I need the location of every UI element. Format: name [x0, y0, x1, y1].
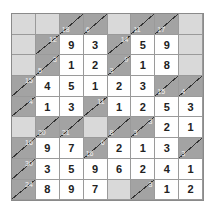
- value-cell[interactable]: 3: [131, 76, 155, 97]
- value-cell[interactable]: 1: [131, 55, 155, 76]
- down-clue: 16: [86, 150, 94, 157]
- across-clue: 15: [25, 77, 33, 84]
- value-cell[interactable]: 3: [179, 97, 203, 118]
- down-clue: 4: [181, 88, 185, 95]
- down-clue: 20: [38, 129, 46, 136]
- value-cell[interactable]: 1: [84, 76, 108, 97]
- across-clue: 16: [25, 139, 33, 146]
- value-cell[interactable]: 9: [60, 35, 84, 56]
- value-cell[interactable]: 5: [131, 35, 155, 56]
- down-clue: 6: [86, 26, 90, 33]
- value-cell[interactable]: 1: [131, 138, 155, 159]
- down-clue: 11: [133, 26, 140, 33]
- down-clue: 21: [62, 129, 70, 136]
- clue-cell: 8: [108, 117, 132, 138]
- clue-cell: 35: [36, 55, 60, 76]
- value-cell[interactable]: 9: [155, 35, 179, 56]
- value-cell[interactable]: 7: [60, 138, 84, 159]
- down-clue: 3: [133, 129, 137, 136]
- across-clue: 12: [49, 36, 57, 43]
- blank-cell: [108, 180, 132, 201]
- blank-cell: [179, 55, 203, 76]
- value-cell[interactable]: 1: [60, 55, 84, 76]
- value-cell[interactable]: 7: [84, 180, 108, 201]
- value-cell[interactable]: 4: [155, 159, 179, 180]
- down-clue: 3: [110, 67, 114, 74]
- blank-cell: [12, 35, 36, 56]
- value-cell[interactable]: 2: [131, 159, 155, 180]
- blank-cell: [179, 35, 203, 56]
- clue-cell: 16: [12, 138, 36, 159]
- value-cell[interactable]: 2: [108, 76, 132, 97]
- clue-cell: 4: [179, 76, 203, 97]
- clue-cell: 20: [36, 117, 60, 138]
- clue-cell: 14: [108, 35, 132, 56]
- clue-cell: 11: [84, 97, 108, 118]
- clue-cell: 15: [12, 76, 36, 97]
- across-clue: 3: [53, 56, 57, 63]
- blank-cell: [12, 117, 36, 138]
- down-clue: 17: [157, 26, 165, 33]
- value-cell[interactable]: 3: [36, 159, 60, 180]
- clue-cell: 616: [84, 138, 108, 159]
- clue-cell: 3: [179, 138, 203, 159]
- blank-cell: [12, 14, 36, 35]
- value-cell[interactable]: 6: [108, 159, 132, 180]
- down-clue: 3: [181, 150, 185, 157]
- value-cell[interactable]: 1: [155, 180, 179, 201]
- clue-cell: 18: [60, 14, 84, 35]
- value-cell[interactable]: 1: [179, 117, 203, 138]
- down-clue: 15: [157, 88, 165, 95]
- across-clue: 6: [101, 139, 105, 146]
- across-clue: 3: [148, 181, 152, 188]
- clue-cell: 12: [36, 35, 60, 56]
- clue-cell: 17: [155, 14, 179, 35]
- blank-cell: [179, 14, 203, 35]
- value-cell[interactable]: 5: [60, 76, 84, 97]
- clue-cell: 6: [84, 14, 108, 35]
- down-clue: 18: [62, 26, 70, 33]
- blank-cell: [84, 117, 108, 138]
- clue-cell: 3: [131, 180, 155, 201]
- value-cell[interactable]: 9: [60, 180, 84, 201]
- across-clue: 9: [125, 56, 129, 63]
- clue-cell: 30: [12, 159, 36, 180]
- value-cell[interactable]: 3: [155, 138, 179, 159]
- value-cell[interactable]: 5: [60, 159, 84, 180]
- across-clue: 30: [25, 160, 33, 167]
- blank-cell: [36, 14, 60, 35]
- value-cell[interactable]: 2: [155, 117, 179, 138]
- across-clue: 4: [29, 98, 33, 105]
- clue-cell: 33: [131, 117, 155, 138]
- clue-cell: 4: [12, 97, 36, 118]
- kakuro-board: 1861117129314593512931815451231544131112…: [11, 13, 204, 201]
- value-cell[interactable]: 1: [108, 97, 132, 118]
- down-clue: 8: [110, 129, 114, 136]
- value-cell[interactable]: 2: [108, 138, 132, 159]
- value-cell[interactable]: 5: [155, 97, 179, 118]
- across-clue: 3: [148, 118, 152, 125]
- clue-cell: 15: [155, 76, 179, 97]
- across-clue: 11: [97, 98, 104, 105]
- clue-cell: 24: [12, 180, 36, 201]
- blank-cell: [108, 14, 132, 35]
- value-cell[interactable]: 1: [179, 159, 203, 180]
- value-cell[interactable]: 4: [36, 76, 60, 97]
- value-cell[interactable]: 3: [60, 97, 84, 118]
- blank-cell: [12, 55, 36, 76]
- value-cell[interactable]: 8: [155, 55, 179, 76]
- value-cell[interactable]: 9: [36, 138, 60, 159]
- down-clue: 5: [38, 67, 42, 74]
- value-cell[interactable]: 2: [131, 97, 155, 118]
- clue-cell: 11: [131, 14, 155, 35]
- clue-cell: 93: [108, 55, 132, 76]
- value-cell[interactable]: 8: [36, 180, 60, 201]
- value-cell[interactable]: 9: [84, 159, 108, 180]
- across-clue: 24: [25, 181, 33, 188]
- value-cell[interactable]: 3: [84, 35, 108, 56]
- value-cell[interactable]: 2: [84, 55, 108, 76]
- clue-cell: 21: [60, 117, 84, 138]
- value-cell[interactable]: 1: [36, 97, 60, 118]
- value-cell[interactable]: 2: [179, 180, 203, 201]
- across-clue: 14: [121, 36, 129, 43]
